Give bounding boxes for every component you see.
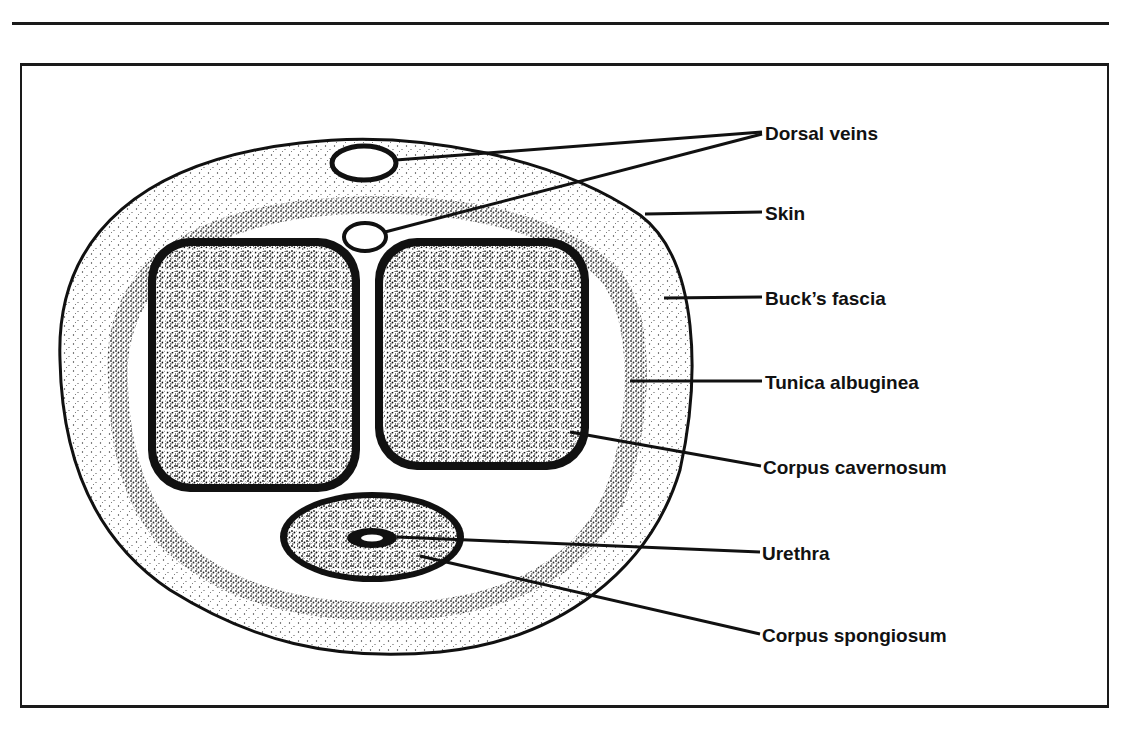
label-corpus-spongiosum: Corpus spongiosum [762,626,947,645]
corpus-spongiosum [280,492,464,582]
label-urethra: Urethra [762,544,830,563]
cross-section-illustration [0,0,1121,737]
corpus-cavernosum-left [148,238,360,492]
label-dorsal-veins: Dorsal veins [765,124,878,143]
label-bucks-fascia: Buck’s fascia [765,289,886,308]
label-skin: Skin [765,204,805,223]
label-corpus-cavernosum: Corpus cavernosum [763,458,947,477]
corpus-cavernosum-right [375,238,589,470]
label-tunica-albuginea: Tunica albuginea [765,373,919,392]
